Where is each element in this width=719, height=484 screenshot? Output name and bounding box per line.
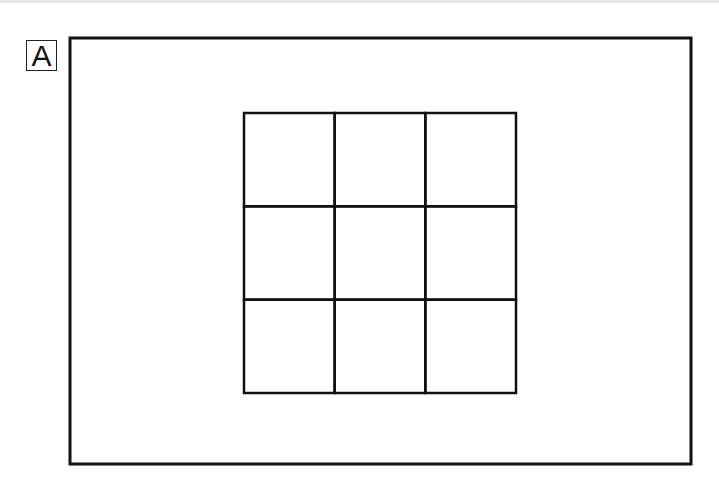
grid-cell-r2-c2 [335,206,426,299]
diagram-canvas [0,0,719,484]
grid-cell-r1-c2 [335,113,426,206]
grid-cell-r3-c1 [244,300,335,393]
grid-cell-r2-c1 [244,206,335,299]
grid-cell-r1-c3 [425,113,516,206]
outer-frame [70,38,691,464]
grid-3x3 [244,113,516,393]
grid-cell-r1-c1 [244,113,335,206]
grid-cell-r2-c3 [425,206,516,299]
grid-cell-r3-c2 [335,300,426,393]
grid-cell-r3-c3 [425,300,516,393]
